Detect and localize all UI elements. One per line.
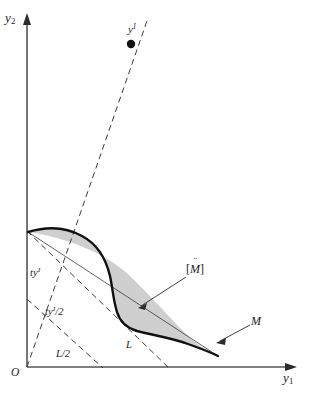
- origin-label: O: [11, 367, 19, 379]
- y-axis-arrowhead: [23, 13, 31, 25]
- figure-canvas: y2 y1 O yI tyI tyI/2 L L/2 [M¨] M: [0, 0, 311, 399]
- ray-ty1-half-label-tail: /2: [55, 306, 63, 317]
- leader-line-set-M-ddot: [141, 277, 186, 306]
- set-M-ddot-close-bracket: ]: [200, 262, 204, 276]
- x-axis-label-base: y: [283, 370, 289, 385]
- leader-arrowhead-set-M: [216, 338, 226, 345]
- y-axis-label-base: y: [5, 10, 11, 25]
- ray-ty1-half-label: tyI/2: [45, 306, 63, 317]
- line-L-half-label: L/2: [56, 349, 70, 360]
- ray-ty1-label-base: ty: [30, 267, 38, 278]
- set-M-shaded-region: [28, 228, 218, 356]
- point-y1-label: yI: [128, 24, 136, 35]
- set-M-ddot-glyph: M¨: [190, 263, 200, 275]
- x-axis-label: y1: [283, 371, 294, 386]
- set-M-label: M: [251, 315, 261, 327]
- leader-line-set-M: [220, 325, 250, 341]
- set-M-thin-edge: [28, 232, 218, 356]
- ray-ty1-label: tyI: [30, 267, 40, 278]
- y-axis-label-subscript: 2: [11, 16, 16, 26]
- point-y1-marker: [127, 40, 135, 48]
- x-axis-label-subscript: 1: [289, 376, 294, 386]
- y-axis-label: y2: [5, 11, 16, 26]
- ray-ty1-half-label-base: ty: [45, 306, 53, 317]
- line-L-label: L: [126, 340, 132, 351]
- diagram-svg: [0, 0, 311, 399]
- ray-ty1-label-superscript: I: [38, 266, 41, 273]
- point-y1-label-superscript: I: [133, 23, 136, 31]
- set-M-ddot-diaeresis: ¨: [194, 258, 197, 267]
- set-M-ddot-label: [M¨]: [186, 263, 204, 275]
